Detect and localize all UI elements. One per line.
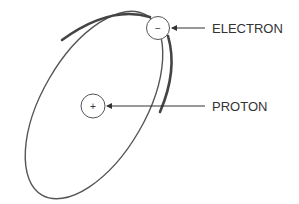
- proton: +: [81, 94, 105, 118]
- atom-diagram: − + ELECTRON PROTON: [0, 0, 299, 204]
- electron: −: [147, 17, 170, 40]
- proton-label: PROTON: [212, 99, 267, 114]
- electron-sign: −: [155, 23, 161, 34]
- proton-sign: +: [90, 101, 96, 112]
- electron-label: ELECTRON: [212, 21, 283, 36]
